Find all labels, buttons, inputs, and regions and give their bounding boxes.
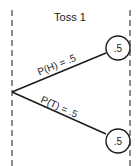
heads-outcome-value: .5: [114, 43, 123, 54]
probability-tree-diagram: Toss 1 P(H) = .5 P(T) = .5 .5 .5: [0, 0, 138, 166]
tails-branch-line: [12, 92, 106, 134]
tails-outcome-value: .5: [114, 136, 123, 147]
toss-title: Toss 1: [54, 11, 86, 23]
